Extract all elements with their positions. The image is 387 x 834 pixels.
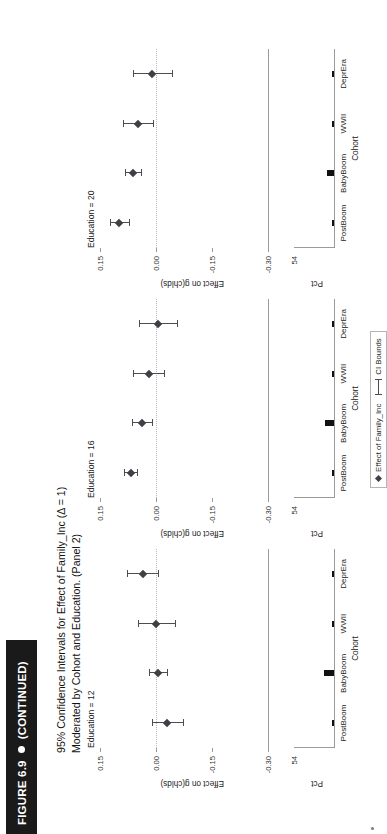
effect-estimate-marker	[154, 669, 162, 677]
category-label: PostBoom	[339, 455, 348, 492]
y-tick	[268, 498, 269, 502]
category-label: PostBoom	[339, 205, 348, 242]
pct-bar	[332, 621, 335, 627]
pct-bar	[332, 470, 335, 476]
panel-title: Education = 16	[86, 440, 96, 498]
ci-cap	[138, 620, 139, 627]
ci-cap	[177, 320, 178, 327]
x-axis-title: Cohort	[351, 636, 360, 661]
category-label: DeprEra	[339, 559, 348, 589]
bullet-icon	[18, 746, 25, 753]
page-corner-mark	[371, 827, 374, 830]
ci-cap	[123, 120, 124, 127]
pct-bar	[332, 571, 335, 577]
ci-cap	[152, 719, 153, 726]
pct-axis-vline	[294, 497, 334, 498]
y-tick	[156, 498, 157, 502]
pct-axes: 54PctPostBoomBabyBoomWWIIDeprEraCohort	[294, 49, 334, 248]
pct-bar	[332, 321, 335, 327]
effect-axes: 0.150.00-0.15-0.30Effect on g(chlds)	[100, 299, 268, 498]
effect-axis-line	[268, 549, 269, 748]
category-label: WWII	[339, 364, 348, 384]
legend-item-ci: CI Bounds	[374, 338, 383, 394]
pct-axis-vline	[294, 247, 334, 248]
ci-cap	[132, 419, 133, 426]
category-label: DeprEra	[339, 309, 348, 339]
y-tick	[100, 498, 101, 502]
pct-axis-title: Pct	[311, 779, 323, 788]
ci-cap	[164, 370, 165, 377]
ci-cap	[127, 570, 128, 577]
legend-label-effect: Effect of Family_Inc	[374, 404, 383, 472]
y-tick-label: 0.00	[152, 506, 161, 521]
effect-estimate-marker	[138, 419, 146, 427]
y-tick-label: 0.00	[152, 756, 161, 771]
ci-cap	[149, 669, 150, 676]
effect-axes: 0.150.00-0.15-0.30Effect on g(chlds)	[100, 49, 268, 248]
ci-cap	[141, 169, 142, 176]
category-label: WWII	[339, 614, 348, 634]
category-label: PostBoom	[339, 705, 348, 742]
pct-axis-title: Pct	[311, 279, 323, 288]
effect-estimate-marker	[152, 619, 160, 627]
ci-cap	[137, 469, 138, 476]
diamond-icon	[375, 475, 382, 482]
y-tick-label: -0.30	[264, 506, 273, 523]
panel-title: Education = 12	[86, 690, 96, 748]
zero-reference-line	[156, 299, 157, 498]
y-axis-title: Effect on g(chlds)	[160, 779, 224, 788]
y-tick-label: 0.15	[96, 756, 105, 771]
x-axis-title: Cohort	[351, 386, 360, 411]
category-label: WWII	[339, 114, 348, 134]
pct-bar	[332, 371, 335, 377]
effect-estimate-marker	[144, 369, 152, 377]
figure-title-line1: 95% Confidence Intervals for Effect of F…	[54, 333, 69, 753]
zero-reference-line	[156, 549, 157, 748]
effect-axes: 0.150.00-0.15-0.30Effect on g(chlds)	[100, 549, 268, 748]
pct-axis-title: Pct	[311, 529, 323, 538]
effect-axis-line	[268, 49, 269, 248]
pct-bar	[325, 420, 334, 426]
ci-cap	[124, 469, 125, 476]
ci-cap	[110, 219, 111, 226]
pct-axis-line	[334, 299, 335, 498]
figure-continued-label: (CONTINUED)	[16, 661, 28, 739]
effect-estimate-marker	[126, 469, 134, 477]
pct-axes: 54PctPostBoomBabyBoomWWIIDeprEraCohort	[294, 299, 334, 498]
pct-tick-label: 54	[290, 756, 299, 764]
effect-estimate-marker	[139, 570, 147, 578]
ci-cap	[133, 370, 134, 377]
y-tick	[268, 748, 269, 752]
pct-bar	[327, 170, 334, 176]
ci-cap	[153, 120, 154, 127]
x-axis-title: Cohort	[351, 136, 360, 161]
ci-cap	[133, 70, 134, 77]
panel-2: Education = 200.150.00-0.15-0.30Effect o…	[88, 49, 360, 282]
y-tick	[100, 248, 101, 252]
panel-1: Education = 160.150.00-0.15-0.30Effect o…	[88, 299, 360, 532]
effect-axis-line	[268, 299, 269, 498]
figure-header-bar: FIGURE 6.9 (CONTINUED)	[6, 640, 37, 834]
y-axis-title: Effect on g(chlds)	[160, 529, 224, 538]
chart-legend: Effect of Family_IncCI Bounds	[370, 331, 387, 488]
pct-tick-label: 54	[290, 256, 299, 264]
effect-estimate-marker	[154, 320, 162, 328]
y-tick-label: -0.15	[208, 256, 217, 273]
pct-axes: 54PctPostBoomBabyBoomWWIIDeprEraCohort	[294, 549, 334, 748]
y-tick	[156, 248, 157, 252]
y-tick-label: -0.15	[208, 506, 217, 523]
y-tick-label: -0.30	[264, 256, 273, 273]
effect-estimate-marker	[129, 169, 137, 177]
pct-bar	[332, 71, 335, 77]
effect-estimate-marker	[163, 719, 171, 727]
category-label: BabyBoom	[339, 154, 348, 193]
category-label: DeprEra	[339, 59, 348, 89]
ci-cap	[172, 70, 173, 77]
pct-tick-label: 54	[290, 506, 299, 514]
panel-0: Education = 120.150.00-0.15-0.30Effect o…	[88, 549, 360, 782]
y-tick	[156, 748, 157, 752]
pct-axis-vline	[294, 747, 334, 748]
error-bar-icon	[375, 379, 382, 395]
category-label: BabyBoom	[339, 404, 348, 443]
